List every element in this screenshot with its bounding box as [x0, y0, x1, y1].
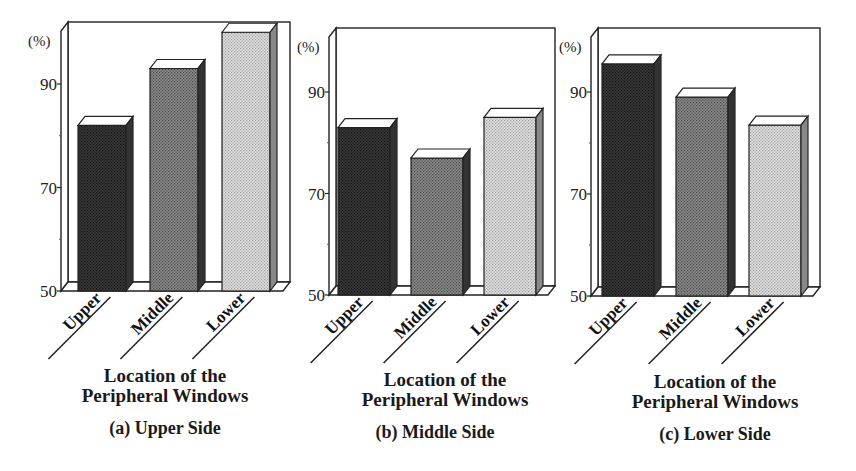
figure: 507090(%)UpperMiddleLower Location of th…	[0, 0, 856, 471]
bar-middle	[676, 88, 735, 296]
x-axis-title-line1: Location of the	[600, 372, 830, 392]
y-tick-label: 50	[570, 287, 587, 306]
plot-area: 507090(%)UpperMiddleLower	[559, 28, 820, 364]
bar-lower	[749, 116, 808, 296]
y-tick-label: 90	[570, 83, 587, 102]
x-axis-title-line2: Peripheral Windows	[600, 392, 830, 412]
y-unit-label: (%)	[559, 39, 582, 56]
x-axis-title-c: Location of the Peripheral Windows	[600, 372, 830, 412]
panel-c: 507090(%)UpperMiddleLower Location of th…	[0, 0, 856, 471]
side-wall	[591, 28, 598, 296]
x-category-label: Lower	[732, 293, 779, 340]
y-tick-label: 70	[570, 185, 587, 204]
bar-upper	[602, 55, 661, 296]
x-category-label: Middle	[655, 293, 705, 343]
panel-caption-c: (c) Lower Side	[600, 424, 830, 444]
bar-chart-c: 507090(%)UpperMiddleLower	[0, 0, 856, 380]
x-category-label: Upper	[585, 293, 631, 339]
